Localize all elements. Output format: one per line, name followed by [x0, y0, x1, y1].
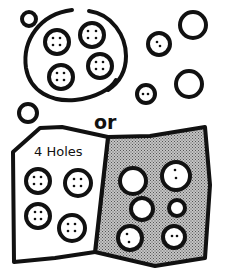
plain-button [169, 200, 185, 216]
other-buttons-region [95, 127, 210, 266]
plain-button [180, 12, 206, 38]
two-hole-button [162, 162, 190, 190]
two-hole-button [137, 85, 155, 103]
plain-button [19, 104, 37, 122]
plain-button [176, 71, 202, 97]
top-section [19, 10, 206, 122]
two-hole-button [148, 33, 170, 55]
button-sorting-diagram: or 4 Holes [0, 0, 228, 276]
or-label: or [94, 111, 117, 133]
four-holes-label: 4 Holes [34, 144, 83, 159]
plain-button [120, 168, 146, 194]
two-hole-button [163, 226, 185, 248]
sorting-mat: 4 Holes [13, 127, 210, 266]
plain-button [131, 198, 153, 220]
two-hole-button [118, 226, 142, 250]
four-hole-button [26, 204, 50, 228]
four-hole-button [88, 54, 112, 78]
four-hole-button [26, 169, 50, 193]
four-hole-button [59, 215, 85, 241]
four-hole-button [65, 170, 91, 196]
plain-button [22, 12, 36, 26]
four-hole-button [80, 23, 104, 47]
four-hole-button [45, 30, 69, 54]
four-hole-button [49, 65, 73, 89]
